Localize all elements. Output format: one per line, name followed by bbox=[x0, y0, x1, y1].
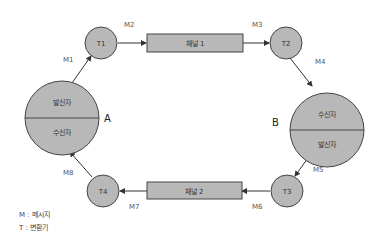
legend-transformer: T : 변환기 bbox=[19, 222, 48, 232]
party-a: 발신자 수신자 bbox=[25, 81, 99, 155]
message-label-m8: M8 bbox=[63, 169, 74, 177]
transformer-t4: T4 bbox=[87, 175, 119, 207]
message-label-m2: M2 bbox=[124, 21, 135, 29]
legend-message: M : 메시지 bbox=[19, 209, 50, 219]
svg-text:T2: T2 bbox=[281, 40, 291, 48]
party-a-label: A bbox=[104, 113, 111, 124]
message-label-m3: M3 bbox=[252, 21, 263, 29]
svg-text:T3: T3 bbox=[282, 188, 292, 196]
arrow-m4 bbox=[290, 58, 312, 86]
message-label-m7: M7 bbox=[129, 203, 140, 211]
party-b-label: B bbox=[272, 117, 279, 128]
party-a-sender: 발신자 bbox=[53, 98, 72, 107]
svg-text:T4: T4 bbox=[98, 188, 108, 196]
message-label-m4: M4 bbox=[315, 58, 326, 66]
svg-text:채널 1: 채널 1 bbox=[186, 39, 205, 48]
svg-text:채널 2: 채널 2 bbox=[185, 187, 204, 196]
channel-1: 채널 1 bbox=[147, 34, 243, 52]
svg-text:T1: T1 bbox=[96, 40, 106, 48]
transformer-t3: T3 bbox=[271, 175, 303, 207]
party-b: 수신자 발신자 bbox=[290, 93, 364, 167]
message-label-m6: M6 bbox=[252, 203, 263, 211]
channel-2: 채널 2 bbox=[147, 182, 242, 199]
communication-diagram: 발신자 수신자 A 수신자 발신자 B T1 T2 T3 T4 채널 1 채널 … bbox=[0, 0, 384, 241]
party-a-receiver: 수신자 bbox=[53, 128, 72, 137]
message-label-m5: M5 bbox=[313, 166, 324, 174]
party-b-sender: 발신자 bbox=[318, 140, 337, 149]
party-b-receiver: 수신자 bbox=[318, 110, 337, 119]
arrow-m1 bbox=[72, 56, 91, 83]
message-label-m1: M1 bbox=[63, 56, 74, 64]
transformer-t1: T1 bbox=[85, 27, 117, 59]
transformer-t2: T2 bbox=[270, 27, 302, 59]
